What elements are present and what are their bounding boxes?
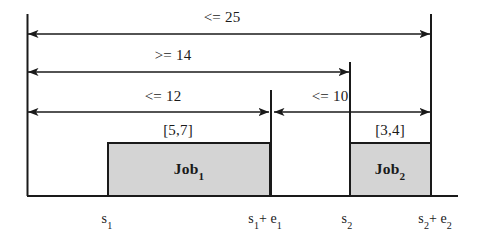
tick-s2e2-index2: 2 [447,220,452,231]
tick-s1e1-suffix: + e [259,211,277,226]
tick-label-s2: s2 [342,212,353,229]
tick-s2e2-suffix: + e [429,211,447,226]
tick-s2-base: s [342,211,348,226]
constraint-label-total-span: <= 25 [204,10,241,25]
job-name-job2: Job2 [375,161,405,180]
tick-label-s1-plus-e1: s1+ e1 [248,212,281,229]
tick-s2-index: 2 [347,220,352,231]
job-name-index-job2: 2 [400,170,406,182]
job-name-index-job1: 1 [199,170,205,182]
job-name-text-job1: Job [174,160,199,177]
diagram-canvas: <= 25 >= 14 <= 12 <= 10 [5,7] [3,4] Job1… [0,0,485,249]
tick-s2e2-base: s [418,211,424,226]
constraint-label-job1-window: <= 12 [145,89,182,104]
tick-s1e1-index1: 1 [254,220,259,231]
duration-label-job1: [5,7] [163,123,193,138]
diagram-graphics [0,0,485,249]
tick-label-s2-plus-e2: s2+ e2 [418,212,451,229]
duration-label-job2: [3,4] [375,123,405,138]
job-name-job1: Job1 [174,161,204,180]
job-name-text-job2: Job [375,160,400,177]
tick-label-s1: s1 [102,212,113,229]
tick-s1-base: s [102,211,108,226]
tick-s1-index: 1 [107,220,112,231]
tick-s1e1-base: s [248,211,254,226]
constraint-label-gap-window: <= 10 [312,89,349,104]
tick-s1e1-index2: 1 [277,220,282,231]
constraint-label-start-to-start: >= 14 [155,48,192,63]
tick-s2e2-index1: 2 [424,220,429,231]
